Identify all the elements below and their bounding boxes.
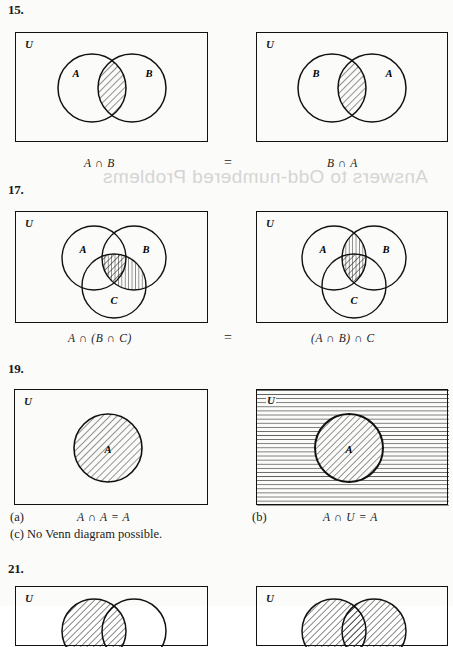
set-label-a: A (318, 244, 326, 255)
set-label-c: C (110, 295, 118, 306)
venn-box-17-left: U (15, 211, 208, 323)
set-label-a: A (78, 244, 86, 255)
relation-17: = (224, 330, 232, 346)
set-label-a: A (103, 444, 111, 455)
venn-diagram-17-right: A B C (257, 212, 449, 324)
set-label-c: C (350, 295, 358, 306)
note-19-c: (c) No Venn diagram possible. (10, 527, 162, 542)
set-label-a: A (71, 68, 79, 79)
caption-15-right: B ∩ A (327, 157, 358, 169)
venn-diagram-21-left (16, 587, 209, 647)
set-label-b: B (144, 68, 152, 79)
caption-15-left: A ∩ B (84, 157, 115, 169)
universe-label: U (266, 592, 274, 604)
set-label-a: A (344, 444, 352, 455)
universe-label: U (24, 395, 32, 407)
caption-17-left: A ∩ (B ∩ C) (68, 332, 132, 344)
set-label-b: B (381, 244, 389, 255)
venn-diagram-15-right: B A (257, 33, 449, 143)
venn-box-15-right: U B A (256, 32, 448, 142)
universe-label: U (266, 38, 274, 50)
universe-label: U (266, 217, 274, 229)
venn-diagram-19-right: A (257, 390, 449, 506)
universe-label: U (25, 38, 33, 50)
relation-15: = (224, 155, 232, 171)
venn-box-19-right: A U (256, 389, 448, 505)
venn-box-21-right: U (256, 586, 448, 646)
part-label-b: (b) (252, 510, 267, 525)
problem-number-17: 17. (8, 182, 24, 198)
set-label-b: B (141, 244, 149, 255)
venn-box-19-left: U A (14, 389, 208, 505)
venn-diagram-15-left: A B (16, 33, 209, 143)
caption-19-left: A ∩ A = A (77, 511, 130, 523)
problem-number-21: 21. (8, 561, 24, 577)
universe-label: U (25, 217, 33, 229)
venn-box-21-left: U (15, 586, 208, 646)
venn-diagram-21-right (257, 587, 449, 647)
caption-17-right: (A ∩ B) ∩ C (311, 332, 375, 344)
universe-label: U (266, 395, 276, 406)
venn-diagram-19-left: A (15, 390, 209, 506)
universe-label: U (25, 592, 33, 604)
problem-number-19: 19. (8, 361, 24, 377)
problem-number-15: 15. (8, 2, 24, 18)
part-label-a: (a) (10, 510, 24, 525)
venn-box-17-right: U (256, 211, 448, 323)
set-label-b: B (311, 68, 319, 79)
venn-box-15-left: U A B (15, 32, 208, 142)
venn-diagram-17-left: A B C (16, 212, 209, 324)
set-label-a: A (384, 68, 392, 79)
caption-19-right: A ∩ U = A (323, 511, 378, 523)
